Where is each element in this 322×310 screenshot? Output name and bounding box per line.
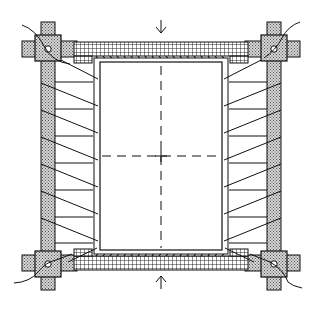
bottom-arrow-icon — [156, 276, 166, 289]
left-post — [41, 22, 55, 290]
right-post — [267, 22, 281, 290]
top-arrow-icon — [156, 20, 166, 33]
frame-diagram — [0, 0, 322, 310]
